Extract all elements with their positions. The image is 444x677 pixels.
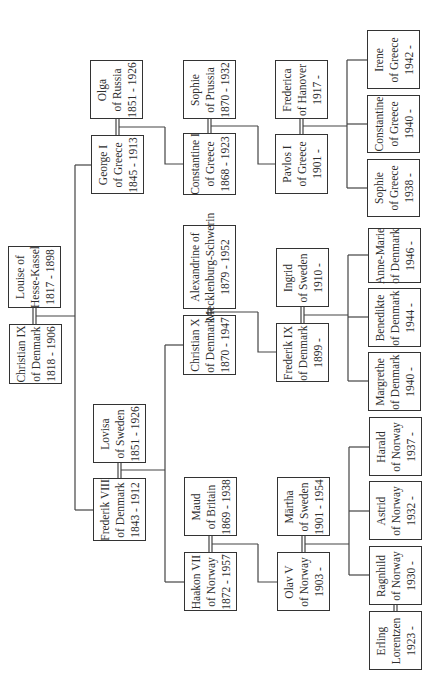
person-name: Sophie: [187, 62, 202, 118]
person-title: of Denmark: [112, 479, 127, 540]
person-name: Astrid: [373, 486, 388, 536]
person-box-astrid: Astridof Norway1932 -: [369, 481, 422, 540]
person-box-harald: Haraldof Norway1937 -: [369, 417, 422, 476]
person-box-benedikte: Benedikteof Denmark1944 -: [368, 288, 421, 347]
person-name: Olav V: [281, 557, 296, 607]
person-box-irene: Ireneof Greece1942 -: [367, 30, 420, 89]
person-box-constantine-i: Constantine Iof Greece1868 - 1923: [183, 133, 236, 195]
person-title: of Denmark: [387, 290, 402, 345]
person-box-pavlos-i: Pavlos Iof Greece1901 -: [275, 134, 328, 194]
person-title: of Greece: [202, 133, 217, 195]
person-name: Frederica: [279, 63, 294, 115]
person-title: of Russia: [109, 62, 124, 118]
person-box-sophie-prussia: Sophieof Prussia1870 - 1932: [183, 60, 236, 119]
person-years: 1901 -: [309, 141, 324, 186]
person-box-olga: Olgaof Russia1851 - 1926: [90, 60, 143, 119]
family-tree-diagram: Christian IXof Denmark1818 - 1906 Louise…: [0, 0, 444, 677]
person-years: 1940 -: [402, 354, 417, 409]
person-title: Lorentzen: [388, 617, 403, 664]
person-title: of Norway: [388, 422, 403, 472]
person-title: of Hanover: [294, 63, 309, 115]
person-name: Christian X: [187, 317, 202, 373]
person-years: 1932 -: [403, 486, 418, 536]
person-box-haakon-vii: Haakon VIIof Norway1872 - 1957: [184, 552, 237, 611]
person-name: Sophie: [371, 165, 386, 210]
person-name: Haakon VII: [188, 554, 203, 610]
person-years: 1917 -: [309, 63, 324, 115]
person-title: Mecklenburg-Schwerin: [202, 213, 217, 321]
person-title: of Norway: [203, 554, 218, 610]
person-title: of Denmark: [387, 354, 402, 409]
person-box-louise: Louise ofHesse-Kassel1817 - 1898: [8, 246, 61, 308]
person-name: George I: [95, 137, 110, 193]
person-years: 1868 - 1923: [217, 133, 232, 195]
person-title: of Greece: [110, 137, 125, 193]
person-years: 1938 -: [401, 165, 416, 210]
person-name: Louise of: [12, 246, 27, 308]
person-years: 1937 -: [403, 422, 418, 472]
person-name: Ingrid: [280, 253, 295, 302]
person-name: Lovisa: [97, 406, 112, 462]
person-box-frederik-viii: Frederik VIIIof Denmark1843 - 1912: [93, 478, 146, 541]
person-box-ingrid: Ingridof Sweden1910 -: [276, 248, 329, 307]
person-box-lovisa: Lovisaof Sweden1851 - 1926: [93, 404, 146, 463]
person-box-sophie-greece: Sophieof Greece1938 -: [367, 159, 420, 217]
person-box-maud: Maudof Britain1869 - 1938: [184, 477, 237, 536]
person-title: of Denmark: [387, 227, 402, 283]
person-years: 1923 -: [403, 617, 418, 664]
person-years: 1845 - 1913: [125, 137, 140, 193]
person-title: Hesse-Kassel: [27, 246, 42, 308]
person-years: 1899 -: [310, 325, 325, 380]
person-title: of Norway: [388, 551, 403, 601]
person-title: of Greece: [386, 97, 401, 152]
person-title: of Britain: [203, 479, 218, 535]
person-title: of Greece: [294, 141, 309, 186]
person-years: 1940 -: [401, 97, 416, 152]
person-title: of Denmark: [295, 325, 310, 380]
person-name: Olga: [94, 62, 109, 118]
person-years: 1901 - 1954: [311, 479, 326, 535]
person-box-olav-v: Olav Vof Norway1903 -: [277, 552, 330, 611]
person-name: Margrethe: [372, 354, 387, 409]
person-years: 1818 - 1906: [43, 325, 58, 382]
person-box-frederik-ix: Frederik IXof Denmark1899 -: [276, 323, 329, 382]
person-name: Harald: [373, 422, 388, 472]
person-years: 1879 - 1952: [217, 213, 232, 321]
person-title: of Greece: [386, 37, 401, 82]
person-name: Maud: [188, 479, 203, 535]
person-years: 1944 -: [402, 290, 417, 345]
person-box-constantine-greece: Constantineof Greece1940 -: [367, 95, 420, 153]
person-years: 1946 -: [402, 227, 417, 283]
person-box-christian-ix: Christian IXof Denmark1818 - 1906: [9, 324, 62, 384]
person-title: of Greece: [386, 165, 401, 210]
person-title: of Norway: [388, 486, 403, 536]
person-title: of Denmark: [28, 325, 43, 382]
person-box-george-i: George Iof Greece1845 - 1913: [91, 135, 144, 194]
person-years: 1870 - 1947: [217, 317, 232, 373]
person-name: Pavlos I: [279, 141, 294, 186]
person-name: Ragnhild: [373, 551, 388, 601]
person-years: 1870 - 1932: [217, 62, 232, 118]
person-box-ragnhild: Ragnhildof Norway1930 -: [369, 546, 422, 605]
person-name: Benedikte: [372, 290, 387, 345]
person-years: 1942 -: [401, 37, 416, 82]
person-years: 1930 -: [403, 551, 418, 601]
person-box-christian-x: Christian Xof Denmark1870 - 1947: [183, 315, 236, 375]
person-title: of Sweden: [112, 406, 127, 462]
person-years: 1869 - 1938: [218, 479, 233, 535]
person-box-alexandrine: Alexandrine ofMecklenburg-Schwerin1879 -…: [183, 225, 236, 309]
person-name: Märtha: [281, 479, 296, 535]
person-name: Irene: [371, 37, 386, 82]
person-years: 1843 - 1912: [127, 479, 142, 540]
person-box-erling: ErlingLorentzen1923 -: [369, 611, 422, 670]
person-name: Alexandrine of: [187, 213, 202, 321]
person-title: of Denmark: [202, 317, 217, 373]
person-name: Anne-Marie: [372, 227, 387, 283]
person-name: Erling: [373, 617, 388, 664]
person-name: Christian IX: [13, 325, 28, 382]
person-years: 1851 - 1926: [127, 406, 142, 462]
person-box-martha: Märthaof Sweden1901 - 1954: [277, 477, 330, 536]
person-name: Frederik VIII: [97, 479, 112, 540]
person-name: Constantine: [371, 97, 386, 152]
person-years: 1903 -: [311, 557, 326, 607]
